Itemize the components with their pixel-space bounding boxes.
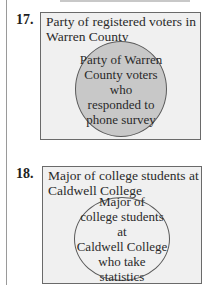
population-line-1: Major of college students at bbox=[48, 168, 199, 183]
population-box-17: Party of registered voters in Warren Cou… bbox=[40, 12, 201, 140]
sample-circle-18: Major of college students at Caldwell Co… bbox=[74, 197, 170, 281]
sample-circle-17: Party of Warren County voters who respon… bbox=[75, 41, 167, 137]
population-box-18: Major of college students at Caldwell Co… bbox=[42, 166, 202, 284]
population-label-17: Party of registered voters in Warren Cou… bbox=[46, 14, 196, 44]
top-rule bbox=[60, 0, 190, 2]
population-line-1: Party of registered voters in bbox=[46, 14, 196, 29]
sample-label-18: Major of college students at Caldwell Co… bbox=[75, 194, 169, 284]
problem-number-17: 17. bbox=[16, 12, 34, 28]
problem-number-18: 18. bbox=[16, 166, 34, 182]
sample-label-17: Party of Warren County voters who respon… bbox=[76, 52, 166, 127]
margin-rule bbox=[6, 0, 7, 285]
